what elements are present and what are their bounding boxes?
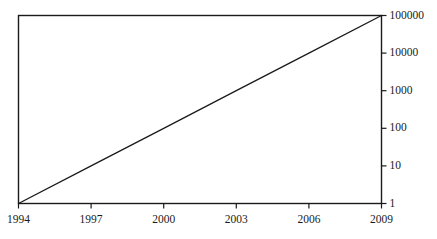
y-axis-tick-label: 10000 <box>390 47 419 59</box>
chart-figure: 199419972000200320062009 110100100010000… <box>0 0 437 239</box>
chart-plot-area <box>0 0 437 239</box>
y-axis-tick-label: 100 <box>390 122 407 134</box>
y-axis-tick-label: 100000 <box>390 10 425 22</box>
x-axis-tick-label: 2009 <box>370 214 393 226</box>
x-axis-ticks <box>19 204 382 209</box>
x-axis-tick-label: 1994 <box>7 214 30 226</box>
y-axis-tick-label: 1 <box>390 198 396 210</box>
y-axis-tick-label: 10 <box>390 160 402 172</box>
x-axis-tick-label: 1997 <box>80 214 103 226</box>
y-axis-ticks <box>382 16 387 204</box>
x-axis-tick-label: 2003 <box>225 214 248 226</box>
y-axis-tick-label: 1000 <box>390 85 413 97</box>
x-axis-tick-label: 2006 <box>297 214 320 226</box>
x-axis-tick-label: 2000 <box>152 214 175 226</box>
